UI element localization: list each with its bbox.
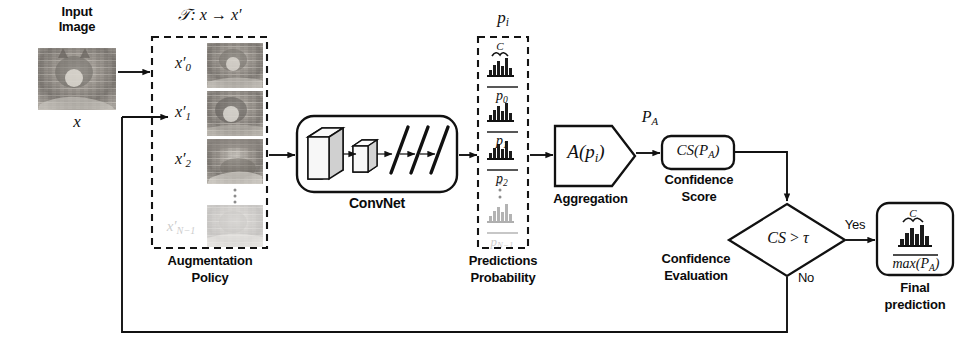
p0-sub: 0 [503, 95, 508, 105]
final-prediction-formula: max(PA) [880, 256, 952, 273]
agg-arg: p [585, 141, 595, 162]
prediction-bars-0 [487, 53, 518, 87]
augmentation-caption-line1: Augmentation [140, 253, 280, 268]
augmented-thumbnail-2 [207, 139, 263, 184]
confidence-evaluation-caption-line2: Evaluation [636, 268, 756, 283]
p1-sub: 1 [503, 140, 508, 150]
pi-sub: i [506, 16, 509, 29]
transform-rest: : x → x′ [190, 6, 241, 23]
augmented-thumbnail-1 [207, 91, 263, 136]
aug-2-sub: 2 [186, 157, 191, 169]
prediction-label-1: p1 [484, 133, 520, 150]
cs-arg: P [699, 142, 708, 158]
augmentation-item-label-2: x′2 [163, 150, 203, 169]
final-prediction-class-axis-label: C [898, 207, 928, 219]
agg-sub: i [595, 150, 599, 165]
prediction-bars-n [487, 204, 518, 233]
branch-label-yes: Yes [835, 217, 875, 232]
ce-right: τ [803, 229, 809, 246]
augmented-thumbnail-n [207, 205, 263, 247]
prediction-label-2: p2 [484, 171, 520, 188]
cs-fn: CS [677, 142, 695, 158]
augmentation-ellipsis [234, 189, 237, 204]
confidence-score-formula: CS(PA) [662, 142, 734, 160]
agg-fn: A [567, 141, 579, 162]
final-prediction-caption-line2: prediction [855, 297, 970, 312]
aug-0-base: x′ [175, 54, 186, 71]
aggregation-formula: A(pi) [555, 141, 617, 166]
aug-n-sub: N−1 [177, 225, 196, 236]
input-image-thumbnail [38, 48, 116, 110]
confidence-score-caption-line2: Score [629, 189, 769, 204]
prediction-label-n: pN−1 [478, 234, 526, 250]
fp-formula: max(P [892, 256, 929, 271]
confidence-evaluation-condition: CS > τ [744, 229, 832, 247]
cs-sub: A [708, 149, 714, 160]
ce-op: > [790, 229, 799, 246]
pn-sub: N−1 [497, 240, 513, 250]
figure-canvas: Input Image x 𝒯: x → x′ x′0 x′1 x′2 x′N−… [0, 0, 970, 354]
prediction-label-0: p0 [484, 88, 520, 105]
aug-1-sub: 1 [186, 110, 191, 122]
aug-0-sub: 0 [186, 61, 191, 73]
branch-label-no: No [791, 270, 821, 285]
fp-end: ) [935, 256, 940, 271]
input-image-title-line2: Image [40, 19, 114, 34]
aug-n-base: x′ [167, 218, 177, 234]
predictions-caption-line1: Predictions [433, 253, 573, 268]
predictions-caption-line2: Probability [433, 270, 573, 285]
confidence-evaluation-caption-line1: Confidence [636, 251, 756, 266]
ce-left: CS [767, 229, 786, 246]
aggregation-output-label: PA [630, 108, 670, 127]
augmentation-caption-line2: Policy [140, 270, 280, 285]
transform-label: 𝒯: x → x′ [150, 6, 270, 24]
convnet-fc-layers-icon [391, 127, 448, 173]
aug-2-base: x′ [175, 150, 186, 167]
final-prediction-bars [893, 218, 938, 255]
predictions-class-axis-label: C [485, 40, 515, 52]
input-image-title-line1: Input [40, 4, 114, 19]
convnet-cube-large-icon [308, 128, 343, 179]
p2-sub: 2 [503, 178, 508, 188]
convnet-cube-small-icon [353, 140, 377, 172]
aug-1-base: x′ [175, 103, 186, 120]
pa-base: P [642, 108, 652, 125]
convnet-caption: ConvNet [307, 196, 447, 211]
pa-sub: A [652, 115, 659, 127]
confidence-score-caption-line1: Confidence [629, 172, 769, 187]
predictions-group-label: pi [478, 8, 528, 29]
prediction-bars-1 [487, 103, 518, 132]
augmentation-item-label-0: x′0 [163, 54, 203, 73]
augmentation-item-label-1: x′1 [163, 103, 203, 122]
augmentation-item-label-n: x′N−1 [156, 218, 206, 236]
final-prediction-caption-line1: Final [855, 280, 970, 295]
input-symbol-x: x [54, 112, 100, 132]
augmented-thumbnail-0 [207, 43, 263, 88]
pi-base: p [497, 8, 506, 27]
transform-T-symbol: 𝒯 [178, 6, 190, 23]
